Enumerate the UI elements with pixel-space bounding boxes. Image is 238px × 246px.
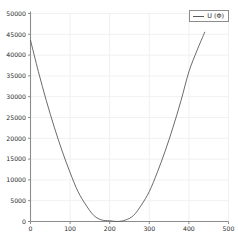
x-tick-label: 200 bbox=[104, 225, 116, 232]
y-axis-ticks: 0500010000150002000025000300003500040000… bbox=[6, 10, 30, 225]
axis-spines bbox=[31, 12, 229, 222]
x-tick-label: 100 bbox=[64, 225, 76, 232]
y-tick-label: 10000 bbox=[6, 176, 26, 183]
y-tick-label: 5000 bbox=[10, 197, 26, 204]
x-tick-label: 0 bbox=[29, 225, 33, 232]
plot-area: 0500010000150002000025000300003500040000… bbox=[0, 0, 238, 246]
legend-label: U (Φ) bbox=[207, 13, 224, 19]
y-tick-label: 35000 bbox=[6, 72, 26, 79]
y-tick-label: 15000 bbox=[6, 155, 26, 162]
gridlines bbox=[31, 14, 229, 222]
legend-line-swatch bbox=[193, 16, 204, 17]
x-axis-ticks: 0100200300400500 bbox=[29, 222, 235, 233]
series-line bbox=[31, 32, 205, 221]
x-tick-label: 300 bbox=[143, 225, 155, 232]
y-tick-label: 40000 bbox=[6, 51, 26, 58]
x-tick-label: 500 bbox=[223, 225, 235, 232]
x-tick-label: 400 bbox=[183, 225, 195, 232]
legend: U (Φ) bbox=[189, 10, 229, 22]
chart-figure: 0500010000150002000025000300003500040000… bbox=[0, 0, 238, 246]
y-tick-label: 0 bbox=[22, 218, 26, 225]
y-tick-label: 50000 bbox=[6, 10, 26, 17]
y-tick-label: 30000 bbox=[6, 93, 26, 100]
y-tick-label: 20000 bbox=[6, 135, 26, 142]
y-tick-label: 25000 bbox=[6, 114, 26, 121]
y-tick-label: 45000 bbox=[6, 31, 26, 38]
data-series-group bbox=[31, 32, 205, 221]
